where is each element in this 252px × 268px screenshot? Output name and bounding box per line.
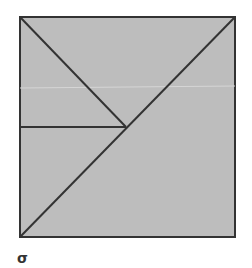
figure-label: σ — [17, 251, 28, 265]
geometric-figure — [0, 0, 252, 268]
